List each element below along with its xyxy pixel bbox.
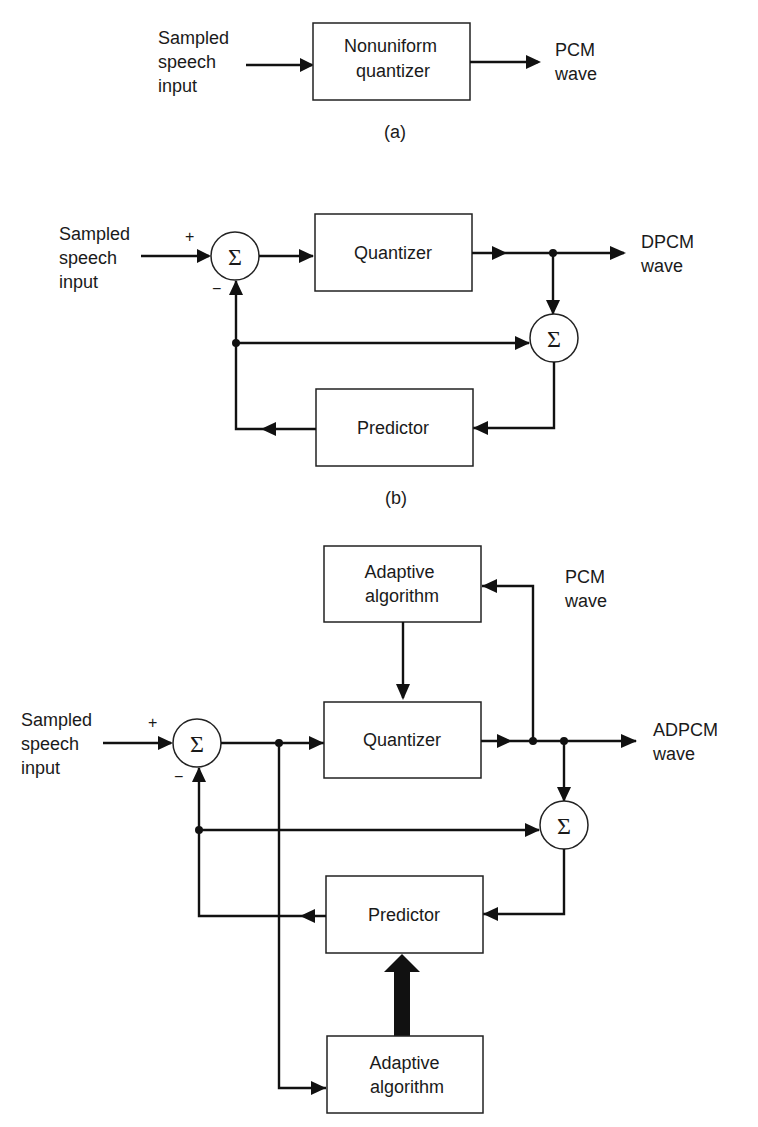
arrowhead-icon	[396, 684, 410, 700]
b-minus-sign: −	[212, 280, 221, 297]
sigma-icon: Σ	[190, 731, 204, 757]
arrowhead-icon	[557, 787, 571, 802]
c-quantizer-label: Quantizer	[363, 730, 441, 750]
c-adaptive-algorithm-top-box	[324, 546, 481, 622]
arrowhead-icon	[229, 280, 243, 295]
c-predictor-feedback	[199, 768, 326, 916]
arrowhead-icon	[483, 907, 498, 921]
c-pcm-label: PCM wave	[564, 567, 610, 611]
b-predictor-label: Predictor	[357, 418, 429, 438]
arrowhead-icon	[473, 421, 488, 435]
b-plus-sign: +	[185, 228, 194, 245]
a-output-label: PCM wave	[554, 40, 600, 84]
c-adaptive-algorithm-bottom-box	[327, 1036, 483, 1113]
c-output-label: ADPCM wave	[652, 720, 723, 764]
caption-a: (a)	[384, 122, 406, 142]
c-minus-sign: −	[174, 768, 183, 785]
arrowhead-icon	[492, 246, 507, 260]
arrowhead-icon	[192, 767, 206, 782]
arrowhead-icon	[482, 579, 497, 593]
thick-arrowhead-icon	[384, 954, 420, 972]
diagram-c-adpcm: Adaptive algorithm PCM wave Sampled spee…	[21, 546, 723, 1113]
caption-b: (b)	[385, 488, 407, 508]
b-predictor-feedback	[236, 281, 316, 429]
c-summer2-to-predictor	[483, 849, 564, 914]
b-quantizer-label: Quantizer	[354, 243, 432, 263]
arrowhead-icon	[525, 823, 540, 837]
arrowhead-icon	[300, 58, 314, 72]
diagram-a-pcm: Sampled speech input Nonuniform quantize…	[158, 23, 600, 142]
c-plus-sign: +	[148, 714, 157, 731]
arrowhead-icon	[526, 55, 541, 69]
b-input-label: Sampled speech input	[59, 224, 135, 292]
c-predictor-label: Predictor	[368, 905, 440, 925]
c-input-label: Sampled speech input	[21, 710, 97, 778]
b-output-label: DPCM wave	[640, 232, 699, 276]
arrowhead-icon	[311, 1081, 326, 1095]
arrowhead-icon	[300, 909, 315, 923]
a-input-label: Sampled speech input	[158, 28, 234, 96]
arrowhead-icon	[621, 734, 637, 748]
diagram-b-dpcm: Sampled speech input + − Σ Quantizer DPC…	[59, 214, 699, 508]
sigma-icon: Σ	[557, 813, 571, 839]
arrowhead-icon	[610, 246, 626, 260]
coding-block-diagrams: Sampled speech input Nonuniform quantize…	[0, 0, 758, 1127]
arrowhead-icon	[299, 249, 314, 263]
arrowhead-icon	[497, 734, 512, 748]
b-summer2-to-predictor	[473, 362, 554, 428]
arrowhead-icon	[515, 336, 530, 350]
arrowhead-icon	[309, 736, 324, 750]
c-pcm-to-adaptive	[482, 586, 533, 741]
sigma-icon: Σ	[228, 244, 242, 270]
arrowhead-icon	[197, 249, 211, 263]
c-thick-arrow-shaft	[394, 970, 410, 1037]
arrowhead-icon	[546, 300, 560, 315]
arrowhead-icon	[261, 422, 276, 436]
sigma-icon: Σ	[547, 326, 561, 352]
arrowhead-icon	[158, 736, 173, 750]
